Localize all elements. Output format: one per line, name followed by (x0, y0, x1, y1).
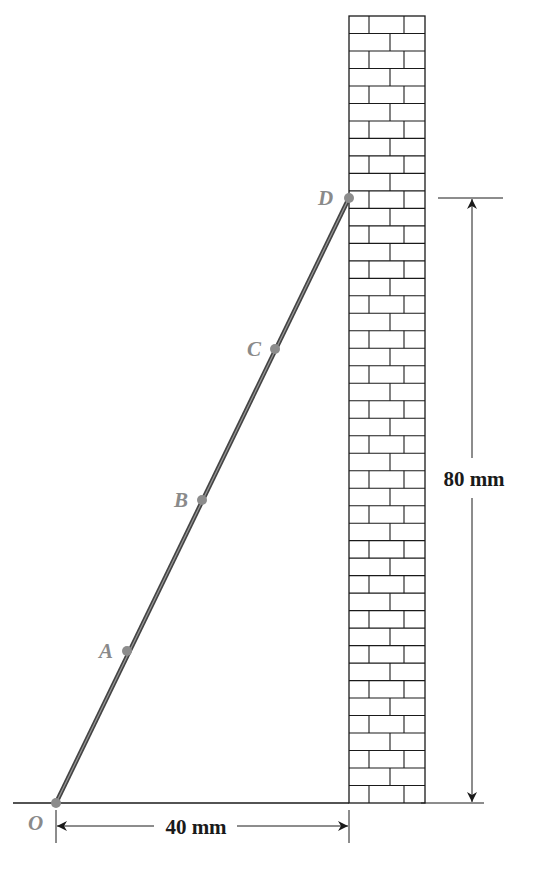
point-a (122, 646, 132, 656)
point-b (197, 495, 207, 505)
label-b: B (173, 488, 188, 512)
points-group: OABCD (28, 186, 354, 835)
dim-vertical-label: 80 mm (443, 467, 505, 491)
label-o: O (28, 811, 43, 835)
label-d: D (317, 186, 333, 210)
point-o (51, 798, 61, 808)
point-d (344, 193, 354, 203)
brick-wall (349, 16, 425, 803)
label-a: A (97, 639, 113, 663)
label-c: C (247, 337, 262, 361)
ladder-wall-diagram: OABCD 40 mm 80 mm (0, 0, 544, 891)
point-c (270, 344, 280, 354)
dim-horizontal-label: 40 mm (165, 815, 227, 839)
